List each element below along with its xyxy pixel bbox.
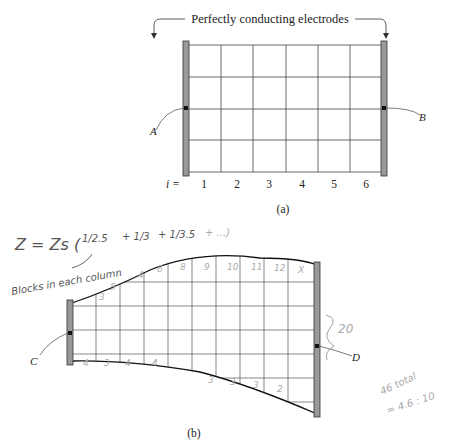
brace-icon [326, 315, 334, 360]
frac-3: + 1/3.5 [158, 229, 195, 240]
count: 11 [251, 262, 262, 272]
count: 3 [208, 375, 214, 385]
bottom-counts: 4 3 4 4 3 3 3 2 [83, 358, 283, 394]
frac-2: + 1/3 [122, 231, 150, 242]
figure-a: Perfectly conducting electrodes A B i = … [149, 12, 426, 216]
label-c: C [30, 355, 38, 367]
count: 3 [104, 358, 110, 368]
column-index: 4 [299, 178, 305, 190]
grid-a [188, 45, 384, 172]
total-note-2: = 4.6 : 10 [385, 390, 436, 416]
count: 12 [274, 263, 286, 273]
count: 5 [110, 282, 116, 292]
count: 4 [125, 358, 131, 368]
terminal-a [184, 106, 188, 110]
count: 2 [277, 384, 283, 394]
frac-more: + ...) [205, 227, 230, 238]
count: X [297, 265, 305, 275]
count: 10 [227, 262, 239, 272]
electrodes-title: Perfectly conducting electrodes [191, 12, 349, 26]
count: 6 [157, 264, 163, 274]
column-index: 1 [201, 178, 207, 190]
count: 4 [152, 358, 158, 368]
count: 3 [99, 292, 105, 302]
total-note-1: 46 total [378, 370, 418, 396]
count: 9 [204, 262, 210, 272]
count: 8 [180, 262, 186, 272]
count: 4 [138, 270, 144, 280]
label-b: B [419, 111, 426, 123]
figure-canvas: Perfectly conducting electrodes A B i = … [0, 0, 449, 444]
terminal-d [315, 344, 319, 348]
label-a: A [149, 125, 157, 137]
frac-1: 1/2.5 [82, 233, 108, 244]
terminal-c [68, 331, 72, 335]
brace-label: 20 [338, 322, 354, 336]
label-d: D [351, 351, 360, 363]
column-index: 5 [331, 178, 337, 190]
column-index: 6 [363, 178, 369, 190]
column-index: 2 [234, 178, 240, 190]
electrode-right-b [314, 262, 320, 417]
caption-b: (b) [187, 427, 201, 440]
figure-b: C D 3 5 4 6 8 9 10 11 12 X 4 3 4 4 3 3 3… [30, 240, 436, 440]
terminal-b [382, 106, 386, 110]
blocks-note: Blocks in each column [10, 267, 122, 297]
count: 3 [230, 377, 236, 387]
arrow-icon [72, 254, 92, 268]
column-index: 3 [266, 178, 272, 190]
formula-lhs: Z = Zs ( [14, 235, 81, 254]
count: 3 [253, 380, 259, 390]
caption-a: (a) [277, 203, 290, 216]
index-prefix: i = [166, 178, 180, 190]
count: 4 [83, 358, 89, 368]
